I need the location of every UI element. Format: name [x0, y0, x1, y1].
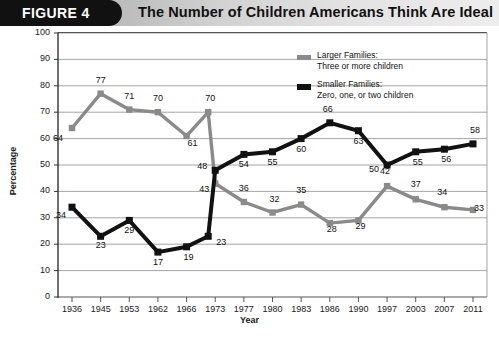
legend-label-larger-families-line2: Three or more children — [317, 61, 403, 72]
larger-families-marker — [413, 196, 419, 202]
smaller-families-marker — [355, 127, 362, 134]
y-tick-label: 70 — [24, 106, 50, 116]
value-label-smaller-families: 48 — [187, 161, 217, 171]
value-label-larger-families: 35 — [286, 185, 316, 195]
legend-swatch-larger-families — [297, 55, 311, 60]
larger-families-marker — [241, 199, 247, 205]
smaller-families-marker — [126, 217, 133, 224]
larger-families-marker — [155, 109, 161, 115]
larger-families-marker — [384, 183, 390, 189]
value-label-larger-families: 43 — [189, 184, 219, 194]
value-label-smaller-families-extra: 23 — [206, 237, 236, 247]
larger-families-marker — [97, 91, 103, 97]
value-label-larger-families: 32 — [260, 194, 290, 204]
larger-families-marker — [205, 109, 211, 115]
legend-item-larger-families: Larger Families: Three or more children — [297, 52, 477, 74]
chart-container: Percentage Year 0102030405060708090100 1… — [0, 26, 499, 341]
legend-label-smaller-families-line2: Zero, one, or two children — [317, 90, 413, 101]
x-axis-title: Year — [0, 315, 499, 325]
smaller-families-marker — [470, 140, 477, 147]
smaller-families-marker — [240, 151, 247, 158]
value-label-larger-families-peak: 70 — [195, 93, 225, 103]
smaller-families-marker — [97, 233, 104, 240]
y-tick-label: 10 — [24, 265, 50, 275]
y-tick-label: 90 — [24, 53, 50, 63]
value-label-smaller-families: 50 — [359, 164, 389, 174]
value-label-larger-families: 36 — [229, 183, 259, 193]
chart-legend: Larger Families: Three or more children … — [297, 52, 477, 110]
value-label-larger-families: 28 — [317, 224, 347, 234]
value-label-larger-families: 61 — [178, 138, 208, 148]
larger-families-marker — [441, 204, 447, 210]
value-label-smaller-families: 55 — [258, 157, 288, 167]
smaller-families-marker — [441, 146, 448, 153]
figure-number-label: FIGURE 4 — [22, 5, 90, 21]
value-label-smaller-families: 29 — [114, 225, 144, 235]
value-label-smaller-families: 63 — [343, 136, 373, 146]
value-label-larger-families: 34 — [427, 187, 457, 197]
legend-swatch-smaller-families — [297, 84, 311, 90]
figure-number-tab: FIGURE 4 — [0, 0, 122, 26]
value-label-larger-families: 29 — [345, 221, 375, 231]
y-tick-label: 20 — [24, 238, 50, 248]
value-label-smaller-families: 17 — [143, 257, 173, 267]
larger-families-marker — [298, 201, 304, 207]
smaller-families-marker — [326, 119, 333, 126]
value-label-larger-families: 37 — [401, 179, 431, 189]
legend-label-smaller-families: Smaller Families: Zero, one, or two chil… — [317, 79, 413, 100]
value-label-larger-families: 70 — [143, 93, 173, 103]
figure-header: FIGURE 4 The Number of Children American… — [0, 0, 499, 26]
smaller-families-marker — [183, 243, 190, 250]
legend-label-smaller-families-line1: Smaller Families: — [317, 79, 413, 90]
larger-families-marker — [269, 209, 275, 215]
value-label-smaller-families: 54 — [229, 159, 259, 169]
value-label-smaller-families: 60 — [286, 144, 316, 154]
legend-label-larger-families: Larger Families: Three or more children — [317, 50, 403, 71]
figure-title: The Number of Children Americans Think A… — [138, 4, 493, 20]
larger-families-marker — [69, 125, 75, 131]
smaller-families-marker — [298, 135, 305, 142]
value-label-smaller-families: 34 — [46, 210, 76, 220]
y-tick-label: 0 — [24, 291, 50, 301]
value-label-smaller-families: 55 — [403, 157, 433, 167]
legend-item-smaller-families: Smaller Families: Zero, one, or two chil… — [297, 81, 477, 103]
y-tick-label: 40 — [24, 185, 50, 195]
y-tick-label: 80 — [24, 80, 50, 90]
value-label-smaller-families: 56 — [431, 154, 461, 164]
value-label-larger-families: 33 — [464, 203, 494, 213]
value-label-larger-families: 77 — [86, 75, 116, 85]
value-label-smaller-families: 23 — [86, 240, 116, 250]
smaller-families-marker — [412, 148, 419, 155]
larger-families-marker — [126, 106, 132, 112]
y-tick-label: 50 — [24, 159, 50, 169]
y-axis-title: Percentage — [8, 131, 18, 211]
smaller-families-marker — [269, 148, 276, 155]
value-label-larger-families: 71 — [114, 91, 144, 101]
y-tick-label: 100 — [24, 27, 50, 37]
value-label-smaller-families: 19 — [174, 252, 204, 262]
value-label-smaller-families: 58 — [460, 125, 490, 135]
x-tick-label: 2011 — [453, 304, 493, 314]
smaller-families-marker — [154, 249, 161, 256]
value-label-larger-families: 64 — [43, 133, 73, 143]
legend-label-larger-families-line1: Larger Families: — [317, 50, 403, 61]
